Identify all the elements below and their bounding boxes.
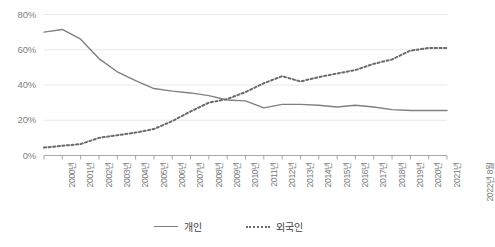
x-axis-tick-label: 2000년 <box>65 162 77 187</box>
x-axis-tick-label: 2002년 <box>102 162 114 187</box>
x-axis-tick-label: 2020년 <box>432 162 444 187</box>
x-axis-tick-label: 2018년 <box>395 162 407 187</box>
y-axis-tick-label: 40% <box>2 79 36 90</box>
x-axis-tick-label: 2009년 <box>230 162 242 187</box>
x-axis-tick-label: 2007년 <box>194 162 206 187</box>
x-axis-tick-label: 2012년 <box>285 162 297 187</box>
chart-legend: 개인 외국인 <box>0 219 456 234</box>
x-axis-tick-label: 2019년 <box>413 162 425 187</box>
legend-label: 외국인 <box>276 219 303 234</box>
x-axis-tick-label: 2016년 <box>359 162 371 187</box>
legend-line-icon-solid <box>154 226 178 227</box>
x-axis-tick-label: 2006년 <box>175 162 187 187</box>
legend-line-icon-dotted <box>246 226 270 228</box>
x-axis-tick-label: 2008년 <box>212 162 224 187</box>
legend-item-foreigner[interactable]: 외국인 <box>246 219 303 234</box>
x-axis-tick-label: 2005년 <box>157 162 169 187</box>
x-axis-ticks <box>44 156 447 160</box>
legend-label: 개인 <box>184 219 202 234</box>
x-axis-tick-label: 2021년 <box>450 162 462 187</box>
x-axis-tick-label: 2010년 <box>249 162 261 187</box>
y-axis-tick-label: 60% <box>2 44 36 55</box>
x-axis-tick-label: 2001년 <box>84 162 96 187</box>
x-axis-tick-label: 2011년 <box>266 162 278 187</box>
gridlines <box>44 15 447 121</box>
y-axis-tick-label: 20% <box>2 114 36 125</box>
x-axis-tick-label: 2022년 8월 <box>483 162 495 202</box>
x-axis-tick-label: 2013년 <box>304 162 316 187</box>
data-series-layer <box>44 29 447 147</box>
series-line-personal <box>44 29 447 110</box>
x-axis-tick-label: 2017년 <box>377 162 389 187</box>
x-axis-tick-label: 2014년 <box>322 162 334 187</box>
x-axis-tick-label: 2003년 <box>120 162 132 187</box>
x-axis-tick-label: 2004년 <box>139 162 151 187</box>
y-axis-tick-label: 0% <box>2 150 36 161</box>
y-axis-tick-label: 80% <box>2 9 36 20</box>
x-axis-tick-label: 2015년 <box>340 162 352 187</box>
legend-item-personal[interactable]: 개인 <box>154 219 202 234</box>
